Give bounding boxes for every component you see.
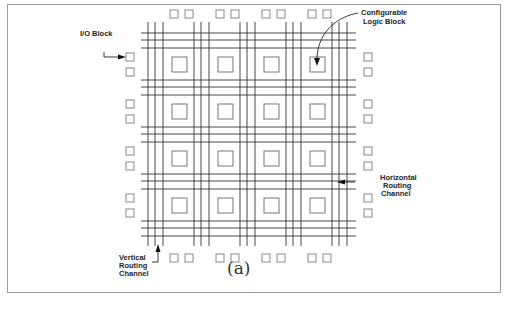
clb-block [172, 104, 187, 119]
clb-block [310, 104, 325, 119]
clb-block [218, 151, 233, 166]
io-block-right [364, 100, 372, 108]
clb-arrow-head-icon [314, 58, 320, 66]
io-block-bottom [323, 254, 331, 262]
io-block-top [170, 10, 178, 18]
clb-block [264, 104, 279, 119]
hrc-label-line3: Channel [381, 189, 411, 198]
io-arrow-head-icon [118, 55, 126, 60]
clb-block [172, 198, 187, 213]
clb-block [218, 104, 233, 119]
clb-block [264, 198, 279, 213]
io-block-right [364, 115, 372, 123]
vrc-arrow-line [152, 252, 158, 262]
routing-channels [141, 22, 356, 246]
io-block-bottom [216, 254, 224, 262]
clb-label-line2: Logic Block [363, 17, 406, 26]
io-block-top [216, 10, 224, 18]
io-block-right [364, 68, 372, 76]
clb-block [218, 57, 233, 72]
clb-block [264, 57, 279, 72]
io-block-left [126, 100, 134, 108]
io-block-bottom [262, 254, 270, 262]
io-block-top [185, 10, 193, 18]
vrc-arrow-head-icon [156, 244, 161, 252]
io-block-top [231, 10, 239, 18]
clb-arrow-line [317, 13, 358, 58]
io-block-right [364, 162, 372, 170]
clb-block [310, 151, 325, 166]
clb-label-line1: Configurable [361, 8, 407, 17]
hrc-arrow-head-icon [337, 180, 345, 185]
io-block-right [364, 209, 372, 217]
io-block-left [126, 209, 134, 217]
io-block-top [308, 10, 316, 18]
io-block-left [126, 162, 134, 170]
io-block-right [364, 194, 372, 202]
io-block-left [126, 68, 134, 76]
io-block-right [364, 53, 372, 61]
io-block-bottom [170, 254, 178, 262]
clb-block [264, 151, 279, 166]
io-block-bottom [308, 254, 316, 262]
figure-caption: (a) [227, 258, 250, 278]
io-block-left [126, 147, 134, 155]
io-block-bottom [185, 254, 193, 262]
io-block-right [364, 147, 372, 155]
clb-block [172, 151, 187, 166]
io-arrow-line [104, 52, 118, 57]
io-block-label: I/O Block [80, 29, 113, 38]
clb-block [310, 198, 325, 213]
vrc-label-line3: Channel [119, 269, 149, 278]
io-block-top [262, 10, 270, 18]
clb-block [218, 198, 233, 213]
io-block-top [277, 10, 285, 18]
clb-block [172, 57, 187, 72]
fpga-diagram [0, 0, 509, 311]
io-block-left [126, 115, 134, 123]
io-block-left [126, 194, 134, 202]
io-block-left [126, 53, 134, 61]
io-block-top [323, 10, 331, 18]
io-block-bottom [277, 254, 285, 262]
annotation-arrows [104, 13, 358, 262]
